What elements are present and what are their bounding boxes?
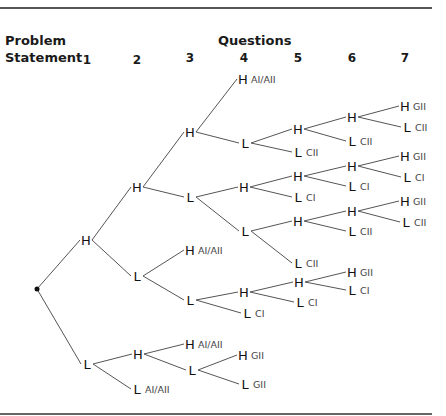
node-symbol: L — [241, 224, 248, 239]
node-low: L — [186, 294, 193, 307]
node-symbol: L — [403, 170, 410, 185]
node-low: L — [133, 270, 140, 283]
node-symbol: L — [186, 190, 193, 205]
tree-edge — [251, 129, 292, 143]
node-symbol: L — [243, 306, 250, 321]
tree-edge — [251, 231, 292, 263]
tree-edge — [305, 282, 346, 290]
outcome-tag: CII — [360, 227, 372, 237]
node-low: L — [348, 135, 355, 148]
tree-edge — [304, 176, 346, 186]
node-symbol: H — [347, 110, 357, 125]
tree-edge — [358, 201, 399, 211]
outcome-tag: AI/AII — [145, 385, 170, 395]
tree-edge — [143, 250, 184, 276]
tree-edge — [196, 79, 237, 132]
outcome-tag: CI — [306, 193, 315, 203]
tree-edge — [196, 300, 241, 313]
node-symbol: L — [133, 382, 140, 397]
tree-edge — [196, 187, 238, 197]
node-symbol: H — [239, 180, 249, 195]
outcome-tag: AI/AII — [198, 246, 223, 256]
node-high: H — [185, 244, 195, 257]
root-node-dot — [35, 287, 40, 292]
tree-edge — [196, 132, 239, 143]
node-symbol: H — [347, 159, 357, 174]
node-low: L — [241, 137, 248, 150]
node-high: H — [293, 215, 303, 228]
node-symbol: L — [402, 215, 409, 230]
tree-edge — [304, 221, 346, 231]
node-symbol: H — [238, 72, 248, 87]
node-low: L — [294, 191, 301, 204]
node-symbol: L — [294, 256, 301, 271]
node-low: L — [294, 146, 301, 159]
node-high: H — [347, 205, 357, 218]
node-symbol: L — [403, 120, 410, 135]
node-high: H — [400, 100, 410, 113]
outcome-tag: CI — [255, 309, 264, 319]
node-high: H — [238, 73, 248, 86]
node-low: L — [348, 284, 355, 297]
tree-edge — [37, 289, 81, 364]
tree-edge — [198, 370, 239, 384]
tree-edge — [305, 272, 346, 282]
outcome-tag: CII — [306, 148, 318, 158]
tree-edge — [358, 117, 401, 127]
node-high: H — [239, 286, 249, 299]
tree-edge — [358, 166, 401, 177]
node-high: H — [132, 181, 142, 194]
tree-edge — [196, 197, 239, 231]
node-symbol: L — [348, 179, 355, 194]
node-symbol: L — [294, 145, 301, 160]
node-low: L — [294, 257, 301, 270]
node-high: H — [347, 266, 357, 279]
node-high: H — [400, 195, 410, 208]
tree-edge — [93, 364, 131, 389]
node-symbol: L — [294, 190, 301, 205]
tree-edge — [144, 354, 186, 370]
node-symbol: L — [348, 224, 355, 239]
node-high: H — [133, 348, 143, 361]
outcome-tag: GII — [360, 268, 373, 278]
node-high: H — [81, 234, 91, 247]
node-symbol: L — [133, 269, 140, 284]
node-symbol: H — [239, 285, 249, 300]
node-symbol: H — [133, 347, 143, 362]
outcome-tag: AI/AII — [251, 75, 276, 85]
tree-edge — [251, 143, 292, 152]
node-symbol: H — [185, 243, 195, 258]
outcome-tag: GII — [413, 102, 426, 112]
node-symbol: H — [294, 275, 304, 290]
node-low: L — [133, 383, 140, 396]
tree-edge — [196, 292, 238, 300]
outcome-tag: GII — [413, 197, 426, 207]
tree-edge — [304, 211, 346, 221]
node-low: L — [186, 191, 193, 204]
node-high: H — [293, 123, 303, 136]
node-symbol: H — [347, 265, 357, 280]
node-symbol: H — [347, 204, 357, 219]
node-symbol: H — [81, 233, 91, 248]
outcome-tag: GII — [253, 380, 266, 390]
node-high: H — [238, 349, 248, 362]
outcome-tag: CII — [414, 218, 426, 228]
node-symbol: H — [132, 180, 142, 195]
decision-tree-edges — [0, 0, 446, 416]
tree-edge — [304, 129, 346, 141]
tree-edge — [144, 344, 184, 354]
node-low: L — [348, 180, 355, 193]
outcome-tag: GII — [251, 351, 264, 361]
node-high: H — [239, 181, 249, 194]
tree-edge — [93, 354, 132, 364]
tree-edge — [250, 292, 294, 302]
bottom-rule — [0, 413, 432, 415]
node-low: L — [243, 307, 250, 320]
node-symbol: L — [348, 134, 355, 149]
tree-edge — [304, 117, 346, 129]
node-high: H — [293, 170, 303, 183]
node-low: L — [296, 296, 303, 309]
tree-edge — [251, 221, 292, 231]
node-low: L — [83, 358, 90, 371]
node-symbol: L — [348, 283, 355, 298]
